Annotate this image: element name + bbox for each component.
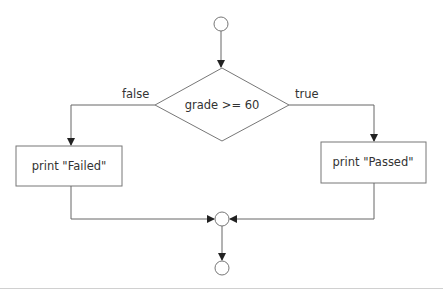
decision-label: grade >= 60 xyxy=(185,98,260,112)
true-label: true xyxy=(295,87,319,101)
merge-node xyxy=(215,212,229,226)
edge-false xyxy=(71,105,155,145)
flowchart-canvas: grade >= 60 false true print "Failed" pr… xyxy=(0,0,443,295)
bottom-divider xyxy=(0,288,443,289)
end-node xyxy=(215,261,229,275)
failed-label: print "Failed" xyxy=(32,159,107,173)
edge-true xyxy=(289,105,374,141)
passed-label: print "Passed" xyxy=(332,155,413,169)
edge-passed-to-merge xyxy=(230,183,374,219)
false-label: false xyxy=(122,87,149,101)
start-node xyxy=(214,17,228,31)
edge-failed-to-merge xyxy=(71,186,214,219)
